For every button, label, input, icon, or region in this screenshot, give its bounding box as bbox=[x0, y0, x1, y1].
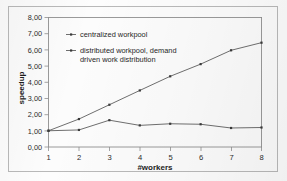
series-1-point-3 bbox=[139, 89, 141, 91]
x-tick-label-8: 8 bbox=[259, 153, 263, 162]
legend-label-1-line1: distributed workpool, demand bbox=[80, 46, 177, 55]
y-tick-label-6: 6,00 bbox=[28, 46, 42, 55]
legend-marker-point-0 bbox=[70, 33, 72, 35]
series-0-point-6 bbox=[230, 127, 232, 129]
x-axis-ticks: 1 2 3 4 5 6 7 8 bbox=[8, 0, 264, 162]
series-1-point-4 bbox=[169, 75, 171, 77]
screenshot-page: 8,00 7,00 6,00 5,00 4,00 3,00 2,00 1,00 … bbox=[0, 0, 287, 181]
series-0-point-2 bbox=[108, 119, 110, 121]
legend-label-1-line2: driven work distribution bbox=[80, 55, 156, 64]
series-1-point-2 bbox=[108, 104, 110, 106]
y-tick-label-1: 1,00 bbox=[28, 127, 42, 136]
series-0-line bbox=[49, 120, 262, 131]
series-0-point-1 bbox=[78, 129, 80, 131]
y-tick-label-0: 0,00 bbox=[28, 143, 42, 152]
series-0-point-4 bbox=[169, 123, 171, 125]
series-1-point-5 bbox=[200, 63, 202, 65]
y-tick-label-8: 8,00 bbox=[28, 13, 42, 22]
series-0 bbox=[47, 119, 262, 132]
x-tick-label-5: 5 bbox=[168, 153, 172, 162]
x-tick-label-7: 7 bbox=[229, 153, 233, 162]
chart-svg: 8,00 7,00 6,00 5,00 4,00 3,00 2,00 1,00 … bbox=[0, 0, 287, 181]
x-tick-label-2: 2 bbox=[77, 153, 81, 162]
series-1-point-0 bbox=[47, 130, 49, 132]
chart-legend: centralized workpool distributed workpoo… bbox=[66, 30, 177, 64]
y-axis-ticks: 8,00 7,00 6,00 5,00 4,00 3,00 2,00 1,00 … bbox=[28, 13, 49, 152]
series-1-point-7 bbox=[260, 42, 262, 44]
x-tick-label-1: 1 bbox=[46, 153, 50, 162]
speedup-line-chart: 8,00 7,00 6,00 5,00 4,00 3,00 2,00 1,00 … bbox=[0, 0, 287, 181]
x-tick-label-3: 3 bbox=[107, 153, 111, 162]
series-0-point-3 bbox=[139, 124, 141, 126]
legend-label-0: centralized workpool bbox=[80, 30, 148, 39]
series-0-point-7 bbox=[260, 126, 262, 128]
y-tick-label-2: 2,00 bbox=[28, 110, 42, 119]
series-1-point-6 bbox=[230, 49, 232, 51]
y-axis-title: speedup bbox=[17, 71, 26, 104]
series-1-point-1 bbox=[78, 118, 80, 120]
x-tick-label-6: 6 bbox=[199, 153, 203, 162]
legend-marker-point-1 bbox=[70, 49, 72, 51]
y-tick-label-7: 7,00 bbox=[28, 29, 42, 38]
x-tick-label-4: 4 bbox=[138, 153, 142, 162]
series-0-point-5 bbox=[200, 123, 202, 125]
x-axis-title: #workers bbox=[137, 163, 173, 172]
y-tick-label-3: 3,00 bbox=[28, 94, 42, 103]
y-tick-label-4: 4,00 bbox=[28, 78, 42, 87]
y-tick-label-5: 5,00 bbox=[28, 62, 42, 71]
